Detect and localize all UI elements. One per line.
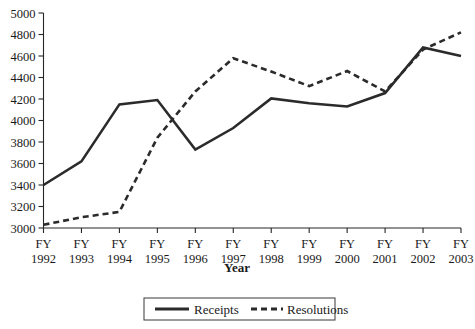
x-axis-tick-prefix: FY <box>377 237 393 251</box>
x-axis-tick-prefix: FY <box>111 237 127 251</box>
y-axis-ticks <box>39 13 44 228</box>
x-axis-tick-prefix: FY <box>301 237 317 251</box>
x-axis-title: Year <box>224 260 250 275</box>
x-axis-tick-year: 1995 <box>145 252 170 266</box>
x-axis-tick-prefix: FY <box>73 237 89 251</box>
x-axis-tick-year: 1998 <box>259 252 284 266</box>
x-axis-tick-year: 1996 <box>183 252 208 266</box>
series-line-receipts <box>44 47 462 185</box>
x-axis-tick-year: 2000 <box>335 252 360 266</box>
x-axis-tick-prefix: FY <box>263 237 279 251</box>
y-axis-tick-label: 3800 <box>11 136 36 150</box>
y-axis-tick-label: 4200 <box>11 93 36 107</box>
x-axis-tick-prefix: FY <box>149 237 165 251</box>
x-axis-tick-year: 2003 <box>449 252 474 266</box>
x-axis-tick-prefix: FY <box>453 237 469 251</box>
y-axis-tick-label: 3400 <box>11 179 36 193</box>
x-axis-tick-prefix: FY <box>187 237 203 251</box>
y-axis-tick-label: 4400 <box>11 71 36 85</box>
x-axis-tick-labels: FY1992FY1993FY1994FY1995FY1996FY1997FY19… <box>31 237 474 266</box>
line-chart: 3000320034003600380040004200440046004800… <box>0 0 475 329</box>
chart-legend: Receipts Resolutions <box>144 298 348 320</box>
x-axis-tick-year: 1993 <box>69 252 94 266</box>
x-axis-tick-prefix: FY <box>225 237 241 251</box>
x-axis-tick-year: 1994 <box>107 252 133 266</box>
x-axis-tick-prefix: FY <box>36 237 52 251</box>
x-axis-tick-year: 1992 <box>31 252 56 266</box>
x-axis-tick-year: 2002 <box>411 252 436 266</box>
chart-canvas: 3000320034003600380040004200440046004800… <box>0 0 475 329</box>
y-axis-tick-label: 3000 <box>11 222 36 236</box>
legend-label-resolutions: Resolutions <box>287 302 348 317</box>
y-axis-tick-label: 3600 <box>11 157 36 171</box>
x-axis-tick-prefix: FY <box>339 237 355 251</box>
x-axis-tick-prefix: FY <box>415 237 431 251</box>
x-axis-tick-year: 2001 <box>373 252 398 266</box>
y-axis-tick-labels: 3000320034003600380040004200440046004800… <box>11 7 36 236</box>
y-axis-tick-label: 4600 <box>11 50 36 64</box>
y-axis-tick-label: 4800 <box>11 28 36 42</box>
legend-label-receipts: Receipts <box>194 302 239 317</box>
y-axis-tick-label: 4000 <box>11 114 36 128</box>
x-axis-ticks <box>44 228 462 233</box>
y-axis-tick-label: 5000 <box>11 7 36 21</box>
x-axis-tick-year: 1999 <box>297 252 322 266</box>
y-axis-tick-label: 3200 <box>11 200 36 214</box>
series-line-resolutions <box>44 32 462 224</box>
